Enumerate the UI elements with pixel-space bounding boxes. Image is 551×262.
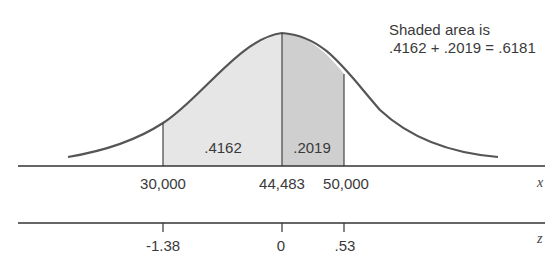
shaded-area-annotation: Shaded area is .4162 + .2019 = .6181 <box>389 21 536 57</box>
x-tick-label-30000: 30,000 <box>140 175 186 192</box>
z-tick-label-neg138: -1.38 <box>146 237 180 254</box>
annotation-line1: Shaded area is <box>389 21 536 39</box>
region-label-4162: .4162 <box>204 139 242 156</box>
z-tick-label-0: 0 <box>277 237 285 254</box>
region-label-2019: .2019 <box>293 139 331 156</box>
x-axis-variable: x <box>537 175 543 191</box>
z-tick-label-053: .53 <box>335 237 356 254</box>
x-tick-label-44483: 44,483 <box>259 175 305 192</box>
z-axis-variable: z <box>537 231 542 247</box>
annotation-line2: .4162 + .2019 = .6181 <box>389 39 536 57</box>
x-tick-label-50000: 50,000 <box>323 175 369 192</box>
